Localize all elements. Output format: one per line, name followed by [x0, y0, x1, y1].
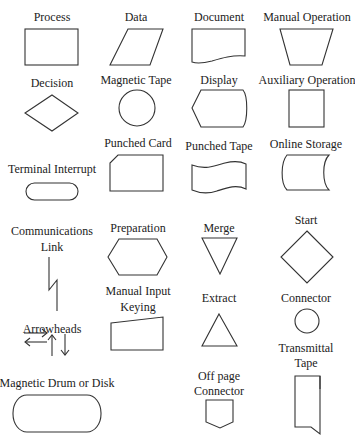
punched-tape-icon: [192, 162, 246, 193]
communications-link-icon: [49, 257, 57, 311]
preparation-hexagon-icon: [108, 239, 167, 275]
flowchart-symbols-diagram: Process Data Document Manual Operation D…: [0, 0, 355, 446]
process-rectangle-icon: [25, 29, 78, 65]
terminal-interrupt-icon: [26, 183, 78, 200]
magnetic-drum-disk-icon: [13, 395, 101, 432]
manual-operation-trapezoid-icon: [280, 29, 333, 65]
extract-triangle-icon: [202, 314, 237, 346]
start-diamond-icon: [281, 231, 333, 283]
connector-circle-icon: [295, 309, 319, 333]
manual-input-keying-icon: [111, 317, 163, 350]
symbol-shapes: [0, 0, 355, 446]
document-icon: [192, 29, 245, 63]
transmittal-tape-icon: [295, 376, 320, 434]
online-storage-icon: [282, 155, 329, 190]
arrowheads-icon: [24, 329, 69, 356]
off-page-connector-icon: [206, 400, 233, 428]
punched-card-icon: [110, 155, 163, 191]
magnetic-tape-circle-icon: [119, 90, 155, 126]
auxiliary-operation-square-icon: [289, 90, 324, 127]
display-icon: [192, 90, 247, 127]
data-parallelogram-icon: [110, 29, 163, 65]
decision-diamond-icon: [25, 95, 78, 131]
merge-triangle-icon: [202, 238, 237, 274]
